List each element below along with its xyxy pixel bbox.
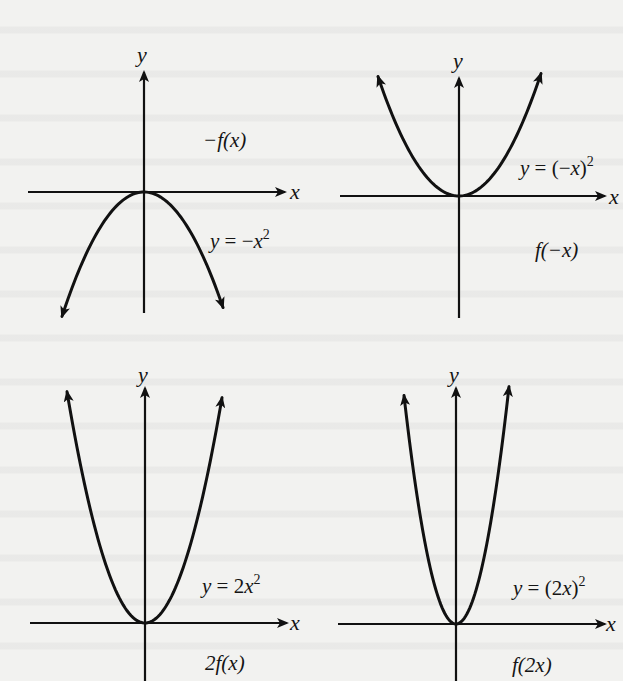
panel-f-two-x-transform-label: f(2x)	[512, 655, 552, 676]
equation-operator: = −	[219, 229, 253, 253]
panel-neg-f	[28, 72, 285, 316]
equation-lhs: y	[202, 574, 211, 598]
equation-variable: x	[562, 576, 571, 600]
panel-two-f-equation: y = 2x2	[202, 573, 261, 597]
equation-variable: x	[254, 229, 263, 253]
panel-f-two-x-x-axis-label: x	[606, 613, 616, 635]
equation-operator: = (−	[529, 156, 570, 180]
panel-f-neg-x-y-axis-label: y	[453, 50, 463, 72]
equation-variable: x	[571, 156, 580, 180]
equation-lhs: y	[520, 156, 529, 180]
panel-f-two-x	[338, 387, 605, 681]
panel-neg-f-y-axis-label: y	[137, 44, 147, 66]
panel-f-neg-x-transform-label: f(−x)	[535, 240, 578, 261]
panel-f-neg-x-x-axis-label: x	[609, 186, 619, 208]
equation-paren: )	[572, 576, 579, 600]
panel-f-neg-x	[340, 74, 605, 318]
equation-variable: x	[244, 574, 253, 598]
panel-f-two-x-y-axis-label: y	[449, 364, 459, 386]
equation-operator: = (2	[522, 576, 562, 600]
equation-exponent: 2	[263, 227, 270, 242]
panel-two-f-transform-label: 2f(x)	[205, 653, 245, 674]
panel-neg-f-transform-label: −f(x)	[203, 130, 246, 151]
equation-exponent: 2	[587, 154, 594, 169]
equation-paren: )	[580, 156, 587, 180]
equation-exponent: 2	[579, 574, 586, 589]
equation-exponent: 2	[254, 572, 261, 587]
equation-lhs: y	[210, 229, 219, 253]
panel-f-neg-x-equation: y = (−x)2	[520, 155, 594, 179]
panel-two-f-y-axis-label: y	[138, 364, 148, 386]
transformations-figure: −f(x) y = −x2 x y f(−x) y = (−x)2 x y 2f…	[0, 0, 623, 681]
panel-neg-f-x-axis-label: x	[290, 181, 300, 203]
equation-lhs: y	[513, 576, 522, 600]
panel-two-f	[30, 388, 287, 681]
parabola-curve	[62, 192, 223, 316]
panel-f-two-x-equation: y = (2x)2	[513, 575, 586, 599]
panel-neg-f-equation: y = −x2	[210, 228, 270, 252]
panel-two-f-x-axis-label: x	[290, 612, 300, 634]
equation-operator: = 2	[211, 574, 244, 598]
